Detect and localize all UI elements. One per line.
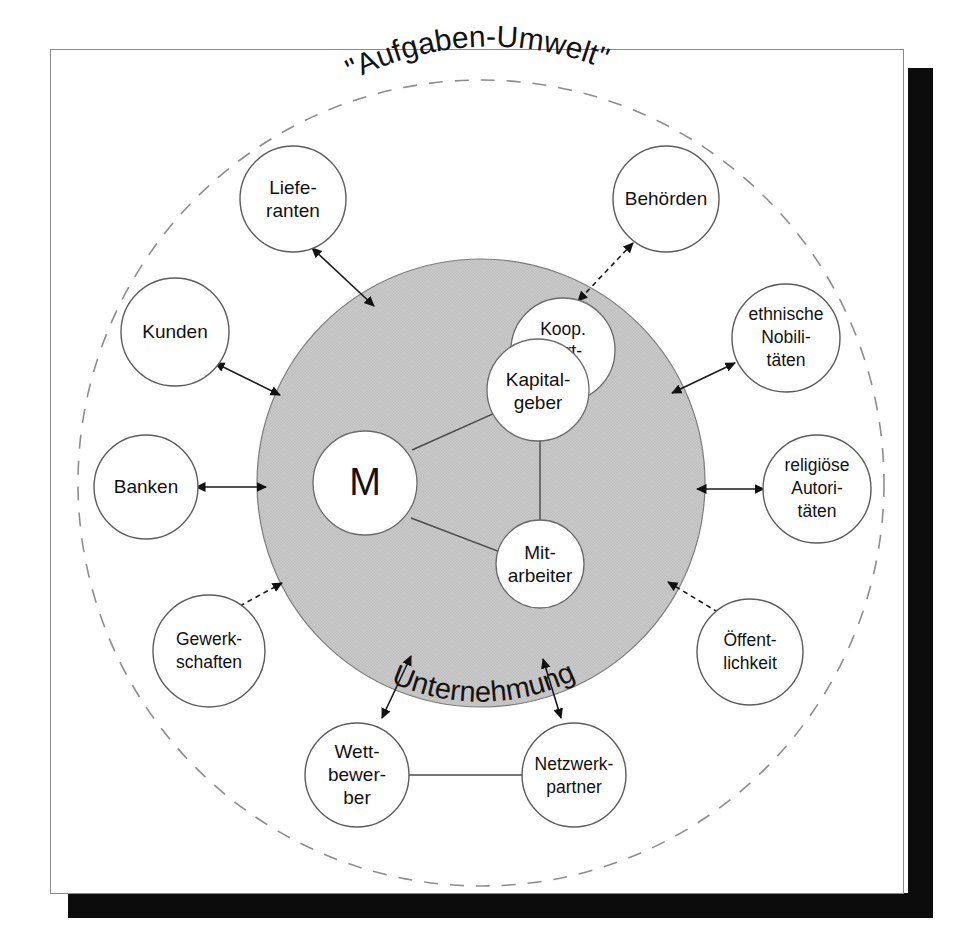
node-kapitalgeber[interactable]: Kapital- geber xyxy=(487,339,589,441)
node-netzwerkpartner-line-1: partner xyxy=(546,777,602,797)
node-management-center[interactable]: M xyxy=(313,431,417,535)
node-banken[interactable]: Banken xyxy=(94,435,198,539)
arrow-lieferanten xyxy=(312,248,374,306)
node-lieferanten-line-1: ranten xyxy=(266,200,320,221)
node-koop-partner-line-0: Koop. xyxy=(540,319,586,339)
node-ethnische-nobilitaeten[interactable]: ethnische Nobili- täten xyxy=(732,284,840,392)
node-netzwerkpartner-line-0: Netzwerk- xyxy=(535,754,614,774)
node-ethnische-nobilitaeten-line-2: täten xyxy=(767,350,806,370)
network-diagram: "Aufgaben-Umwelt" Unternehmung xyxy=(0,0,967,947)
node-ethnische-nobilitaeten-line-0: ethnische xyxy=(749,304,824,324)
node-wettbewerber-line-1: bewer- xyxy=(328,764,386,785)
node-kapitalgeber-line-1: geber xyxy=(514,392,563,413)
arrow-ethnische-nobilitaeten xyxy=(672,363,735,393)
node-netzwerkpartner-circle[interactable] xyxy=(522,723,626,827)
node-oeffentlichkeit-line-0: Öffent- xyxy=(723,630,776,650)
diagram-title: "Aufgaben-Umwelt" xyxy=(340,20,613,86)
node-netzwerkpartner[interactable]: Netzwerk- partner xyxy=(522,723,626,827)
node-oeffentlichkeit[interactable]: Öffent- lichkeit xyxy=(697,599,803,705)
arrow-behoerden xyxy=(578,243,633,301)
node-management-label: M xyxy=(349,461,381,503)
node-wettbewerber[interactable]: Wett- bewer- ber xyxy=(305,723,409,827)
arrow-kunden xyxy=(215,363,280,395)
node-mitarbeiter-line-1: arbeiter xyxy=(508,565,573,586)
node-mitarbeiter-line-0: Mit- xyxy=(524,542,556,563)
figure-canvas: "Aufgaben-Umwelt" Unternehmung xyxy=(0,0,967,947)
node-religioese-autoritaeten-line-0: religiöse xyxy=(784,455,849,475)
node-lieferanten-line-0: Liefe- xyxy=(269,177,317,198)
node-kunden[interactable]: Kunden xyxy=(121,278,229,386)
node-behoerden-line-0: Behörden xyxy=(625,188,707,209)
node-religioese-autoritaeten-line-1: Autori- xyxy=(791,478,843,498)
node-mitarbeiter[interactable]: Mit- arbeiter xyxy=(496,520,584,608)
node-kapitalgeber-line-0: Kapital- xyxy=(506,369,570,390)
node-religioese-autoritaeten-line-2: täten xyxy=(798,501,837,521)
node-lieferanten-circle[interactable] xyxy=(240,146,346,252)
node-gewerkschaften-line-0: Gewerk- xyxy=(176,629,242,649)
node-behoerden[interactable]: Behörden xyxy=(613,146,719,252)
node-gewerkschaften[interactable]: Gewerk- schaften xyxy=(153,595,265,707)
node-wettbewerber-line-2: ber xyxy=(343,787,371,808)
node-wettbewerber-line-0: Wett- xyxy=(334,741,379,762)
node-lieferanten[interactable]: Liefe- ranten xyxy=(240,146,346,252)
node-kunden-line-0: Kunden xyxy=(142,321,208,342)
diagram-title-text: "Aufgaben-Umwelt" xyxy=(340,20,613,86)
node-mitarbeiter-circle[interactable] xyxy=(496,520,584,608)
node-banken-line-0: Banken xyxy=(114,476,178,497)
node-gewerkschaften-line-1: schaften xyxy=(176,652,242,672)
node-ethnische-nobilitaeten-line-1: Nobili- xyxy=(761,327,811,347)
node-oeffentlichkeit-line-1: lichkeit xyxy=(723,653,777,673)
node-religioese-autoritaeten[interactable]: religiöse Autori- täten xyxy=(763,435,871,543)
